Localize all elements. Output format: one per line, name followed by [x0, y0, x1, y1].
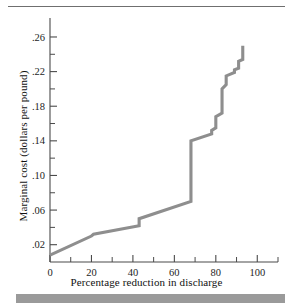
y-axis-label: Marginal cost (dollars per pound)	[17, 31, 29, 261]
cost-curve-series-0	[50, 46, 243, 255]
y-tick-label: .26	[32, 32, 45, 43]
x-axis-label: Percentage reduction in discharge	[0, 276, 293, 288]
y-tick-label: .22	[32, 66, 45, 77]
top-divider-rule	[8, 6, 285, 7]
tick-labels-group: .02.06.10.14.18.22.26020406080100	[32, 32, 265, 278]
y-tick-label: .10	[32, 170, 45, 181]
chart-canvas: .02.06.10.14.18.22.26020406080100	[0, 8, 293, 290]
y-tick-label: .06	[32, 205, 45, 216]
bottom-gray-bar	[16, 294, 285, 303]
y-tick-label: .18	[32, 101, 45, 112]
marginal-cost-chart-figure: .02.06.10.14.18.22.26020406080100 Margin…	[0, 0, 293, 307]
plot-area: .02.06.10.14.18.22.26020406080100	[0, 8, 293, 290]
y-tick-label: .02	[32, 239, 45, 250]
y-tick-label: .14	[32, 135, 46, 146]
data-series-group	[50, 46, 243, 255]
ticks-group	[50, 37, 278, 262]
